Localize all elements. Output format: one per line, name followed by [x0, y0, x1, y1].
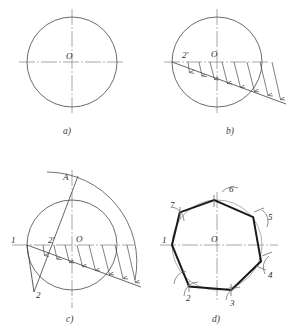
panel-b-caption: b) — [226, 126, 234, 137]
panel-b-label-center: O — [211, 49, 218, 59]
panel-c-label-center: O — [76, 234, 83, 244]
panel-c-label-1: 1 — [11, 235, 16, 245]
panel-d-vertex-label-6: 6 — [229, 184, 234, 194]
panel-d-vertex-label-2: 2 — [186, 293, 191, 303]
figure-background — [0, 0, 290, 332]
panel-a-caption: a) — [63, 126, 71, 137]
panel-d-vertex-label-7: 7 — [170, 200, 175, 210]
panel-d-caption: d) — [212, 314, 220, 325]
panel-d-vertex-label-4: 4 — [268, 270, 273, 280]
panel-c-label-A: A — [62, 172, 69, 182]
panel-c-label-2prime: 2' — [48, 235, 56, 245]
panel-b-label-2prime: 2' — [182, 50, 190, 60]
panel-d-vertex-label-1: 1 — [162, 235, 167, 245]
panel-a-center-label: O — [66, 51, 73, 61]
panel-d-vertex-label-3: 3 — [229, 298, 235, 308]
panel-d-vertex-label-5: 5 — [268, 212, 273, 222]
panel-c-label-2: 2 — [36, 290, 41, 300]
heptagon-construction-figure: O a) 2' O b) — [0, 0, 290, 332]
panel-d-center-label: O — [211, 234, 218, 244]
panel-c-caption: c) — [66, 314, 73, 325]
